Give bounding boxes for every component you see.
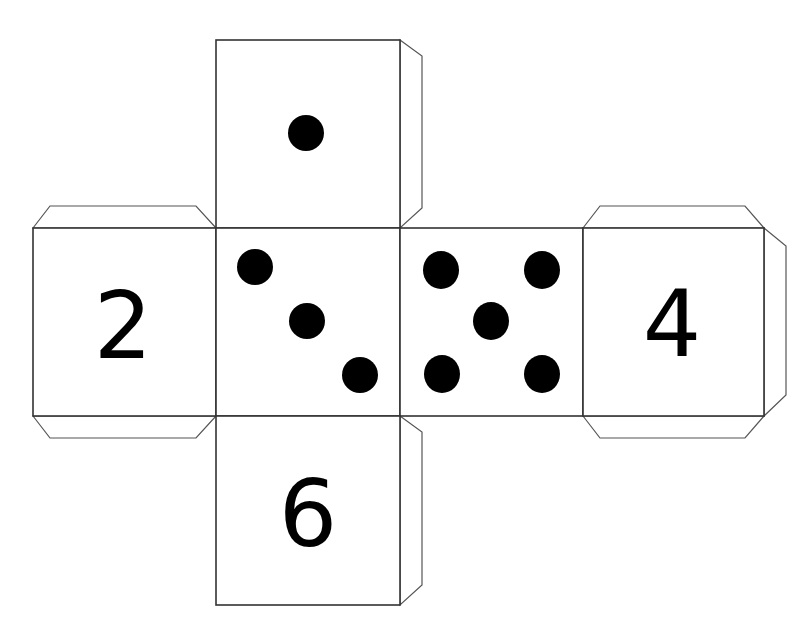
pip (524, 251, 560, 289)
left-face-bottom-tab (33, 416, 216, 438)
face-left-numeral: 2 (94, 273, 153, 380)
pip (342, 357, 378, 393)
pip (424, 355, 460, 393)
right-face-top-tab (583, 206, 764, 228)
pip (289, 303, 325, 339)
pip (237, 249, 273, 285)
right-face-bottom-tab (583, 416, 764, 438)
pip (524, 355, 560, 393)
left-face-top-tab (33, 206, 216, 228)
face-bottom-numeral: 6 (279, 461, 338, 568)
dice-net: 2 4 6 (0, 0, 811, 633)
pip (473, 302, 509, 340)
bottom-face-right-tab (400, 416, 422, 605)
pip (423, 251, 459, 289)
pip (288, 115, 324, 151)
right-face-right-tab (764, 228, 786, 416)
top-face-right-tab (400, 40, 422, 228)
face-right-numeral: 4 (643, 271, 702, 378)
